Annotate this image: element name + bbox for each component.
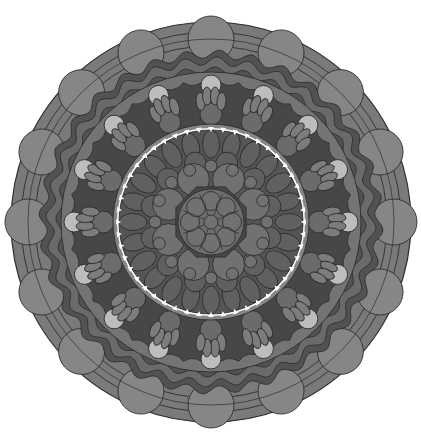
core-small-bead [184, 164, 196, 176]
core-small-bead [257, 195, 269, 207]
core-small-bead [205, 160, 217, 172]
center-dot [204, 215, 218, 229]
inner-petal [203, 286, 220, 314]
core-small-bead [149, 216, 161, 228]
inner-petal [275, 214, 303, 231]
inner-petal [203, 130, 220, 158]
core-small-bead [245, 256, 257, 268]
core-small-bead [153, 195, 165, 207]
core-small-bead [257, 237, 269, 249]
core-small-bead [205, 272, 217, 284]
center-circle [187, 198, 206, 217]
mandala-graphic [0, 0, 421, 444]
core-small-bead [184, 268, 196, 280]
core-small-bead [165, 256, 177, 268]
core-small-bead [153, 237, 165, 249]
mandala-canvas: grayscale mandala [0, 0, 421, 444]
inner-petal [119, 214, 147, 231]
core-small-bead [226, 164, 238, 176]
core-small-bead [165, 176, 177, 188]
core-small-bead [226, 268, 238, 280]
core-small-bead [261, 216, 273, 228]
core-small-bead [245, 176, 257, 188]
